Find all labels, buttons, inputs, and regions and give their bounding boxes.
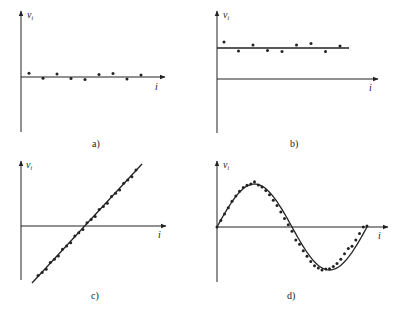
- panel-d: vi i d): [216, 159, 389, 302]
- data-point: [135, 169, 138, 172]
- data-point: [306, 255, 309, 258]
- panel-label: b): [290, 138, 298, 150]
- data-point: [56, 73, 59, 76]
- panel-label: a): [92, 138, 100, 150]
- panel-c: vi i c): [21, 159, 166, 302]
- data-point: [216, 226, 219, 229]
- data-point: [126, 179, 129, 182]
- data-point: [234, 195, 237, 198]
- data-point: [45, 268, 48, 271]
- data-point: [84, 78, 87, 81]
- data-point: [347, 247, 350, 250]
- panel-a: vi i a): [21, 9, 165, 150]
- data-point: [354, 238, 357, 241]
- y-axis-label: vi: [27, 9, 33, 21]
- data-point: [65, 245, 68, 248]
- data-point: [276, 204, 279, 207]
- x-axis-label: i: [155, 81, 158, 92]
- data-point: [238, 190, 241, 193]
- panel-label: c): [91, 290, 99, 302]
- data-point: [70, 77, 73, 80]
- data-point: [294, 238, 297, 241]
- panel-label: d): [287, 290, 295, 302]
- data-point: [249, 183, 252, 186]
- data-point: [324, 268, 327, 271]
- data-points: [28, 72, 143, 81]
- data-point: [281, 50, 284, 53]
- data-point: [231, 200, 234, 203]
- x-axis-label: i: [158, 229, 161, 240]
- data-point: [291, 230, 294, 233]
- data-point: [118, 189, 121, 192]
- data-point: [37, 274, 40, 277]
- data-point: [102, 205, 105, 208]
- data-point: [28, 72, 31, 75]
- data-point: [261, 186, 264, 189]
- data-point: [343, 252, 346, 255]
- data-point: [339, 258, 342, 261]
- data-point: [223, 41, 226, 44]
- data-point: [287, 223, 290, 226]
- data-points: [223, 41, 342, 54]
- data-point: [227, 206, 230, 209]
- data-point: [257, 183, 260, 186]
- data-point: [77, 231, 80, 234]
- data-point: [324, 50, 327, 53]
- data-point: [366, 225, 369, 228]
- data-point: [130, 175, 133, 178]
- data-point: [140, 74, 143, 77]
- data-point: [358, 232, 361, 235]
- data-point: [266, 49, 269, 52]
- data-point: [81, 228, 84, 231]
- data-point: [317, 266, 320, 269]
- data-point: [90, 218, 93, 221]
- data-point: [223, 213, 226, 216]
- data-point: [42, 77, 45, 80]
- data-point: [279, 210, 282, 213]
- data-point: [321, 269, 324, 272]
- data-point: [328, 267, 331, 270]
- data-point: [310, 42, 313, 45]
- data-point: [126, 78, 129, 81]
- data-point: [295, 44, 298, 47]
- x-axis-label: i: [378, 230, 381, 241]
- data-point: [309, 260, 312, 263]
- data-point: [86, 221, 89, 224]
- data-point: [41, 271, 44, 274]
- data-point: [69, 241, 72, 244]
- data-point: [49, 261, 52, 264]
- data-point: [57, 255, 60, 258]
- data-point: [336, 262, 339, 265]
- data-point: [219, 219, 222, 222]
- panel-b: vi i b): [217, 9, 378, 150]
- data-point: [94, 215, 97, 218]
- data-point: [298, 243, 301, 246]
- data-point: [283, 217, 286, 220]
- figure-canvas: vi i a) vi i b) vi i c) vi i d): [0, 0, 400, 323]
- data-point: [351, 245, 354, 248]
- data-point: [73, 235, 76, 238]
- data-point: [339, 45, 342, 48]
- data-point: [272, 199, 275, 202]
- data-point: [122, 182, 125, 185]
- x-axis-label: i: [369, 82, 372, 93]
- data-point: [106, 202, 109, 205]
- data-point: [246, 184, 249, 187]
- data-point: [268, 193, 271, 196]
- y-axis-label: vi: [223, 159, 229, 171]
- data-point: [362, 226, 365, 229]
- data-point: [112, 72, 115, 75]
- data-point: [253, 180, 256, 183]
- data-point: [302, 249, 305, 252]
- data-point: [313, 264, 316, 267]
- data-point: [264, 189, 267, 192]
- data-point: [110, 195, 113, 198]
- y-axis-label: vi: [223, 9, 229, 21]
- y-axis-label: vi: [26, 159, 32, 171]
- data-point: [61, 248, 64, 251]
- data-point: [98, 208, 101, 211]
- data-point: [332, 265, 335, 268]
- data-point: [98, 73, 101, 76]
- data-point: [237, 50, 240, 53]
- data-point: [53, 258, 56, 261]
